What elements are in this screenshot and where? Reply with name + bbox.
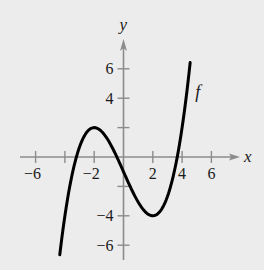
y-tick-label: −6 <box>96 237 113 254</box>
x-tick-label: 6 <box>207 165 215 182</box>
y-axis-label: y <box>118 15 128 34</box>
x-tick-label: 2 <box>149 165 157 182</box>
plot-area: −6−2246−6−446 x y f <box>0 0 264 270</box>
axes <box>20 39 240 260</box>
curve-label-f: f <box>195 82 203 102</box>
x-tick-label: −2 <box>83 165 100 182</box>
x-tick-label: 4 <box>178 165 186 182</box>
x-axis-label: x <box>243 147 252 166</box>
y-tick-label: 6 <box>106 60 114 77</box>
chart: −6−2246−6−446 x y f <box>0 0 264 270</box>
function-curve-f <box>60 63 190 255</box>
x-tick-label: −6 <box>24 165 41 182</box>
y-tick-label: −4 <box>96 207 113 224</box>
y-tick-label: 4 <box>106 90 114 107</box>
